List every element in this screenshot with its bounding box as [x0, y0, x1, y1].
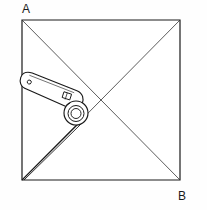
lever-pivot-hub[interactable] — [64, 101, 88, 125]
vertex-label-a: A — [22, 3, 30, 15]
technical-drawing-svg — [0, 0, 207, 210]
figure-container: A B — [0, 0, 207, 210]
hub-inner-bore — [71, 109, 81, 119]
vertex-label-b: B — [178, 190, 186, 202]
